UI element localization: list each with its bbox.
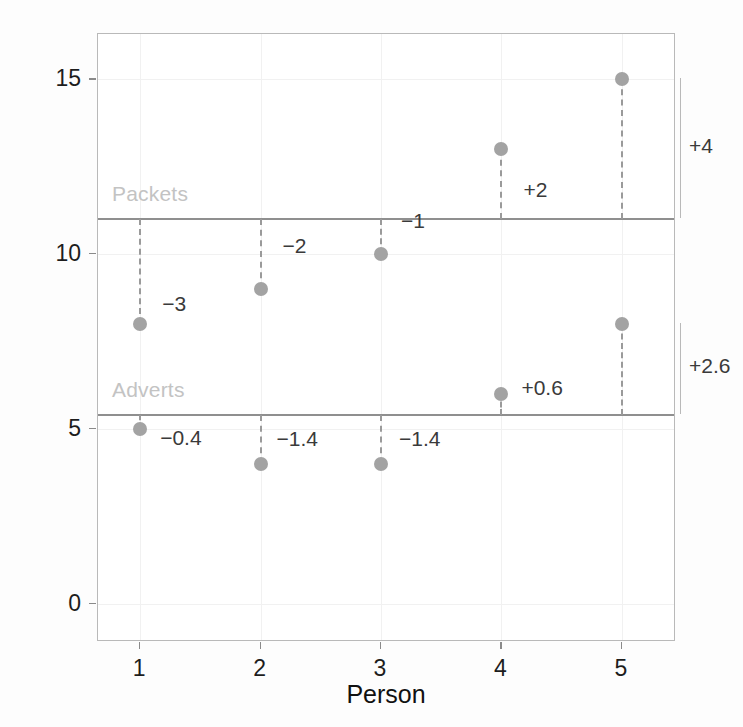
gridline-horizontal [98,79,674,80]
gridline-vertical [140,34,141,640]
bracket-packets [680,78,681,218]
mean-line-adverts [98,414,674,416]
data-point-packets-3[interactable] [374,247,388,261]
bracket-adverts [680,323,681,414]
mean-line-packets [98,218,674,220]
y-tick [89,603,96,604]
x-tick-label-2: 2 [253,655,266,682]
data-point-adverts-1[interactable] [133,422,147,436]
data-point-adverts-3[interactable] [374,457,388,471]
y-tick-label-0: 0 [7,589,81,616]
y-tick [89,428,96,429]
plot-area: PacketsAdverts −3−2−1+2−0.4−1.4−1.4+0.6 [97,33,675,641]
data-point-packets-1[interactable] [133,317,147,331]
y-tick [89,78,96,79]
data-point-packets-5[interactable] [615,72,629,86]
deviation-label-adverts-1: −0.4 [160,426,201,450]
x-axis-title: Person [97,680,675,709]
deviation-label-packets-4: +2 [523,178,547,202]
deviation-label-adverts-3: −1.4 [399,427,440,451]
deviation-label-packets-1: −3 [162,292,186,316]
data-point-packets-4[interactable] [494,142,508,156]
x-tick-label-3: 3 [374,655,387,682]
chart-canvas: Number of Adverts/Packets 051015 Packets… [0,0,743,727]
gridline-vertical [501,34,502,640]
y-tick-label-15: 15 [7,65,81,92]
deviation-label-packets-2: −2 [283,234,307,258]
x-tick-label-5: 5 [614,655,627,682]
deviation-line-adverts-5 [621,324,623,415]
data-point-packets-2[interactable] [254,282,268,296]
y-tick [89,253,96,254]
x-tick [139,642,140,649]
y-tick-label-5: 5 [7,414,81,441]
x-tick [260,642,261,649]
x-tick [380,642,381,649]
deviation-label-packets-3: −1 [401,209,425,233]
deviation-label-adverts-2: −1.4 [277,427,318,451]
x-tick [500,642,501,649]
gridline-vertical [261,34,262,640]
deviation-line-packets-1 [139,219,141,324]
deviation-line-packets-2 [260,219,262,289]
gridline-horizontal [98,604,674,605]
deviation-line-packets-5 [621,79,623,219]
x-tick [621,642,622,649]
mean-label-packets: Packets [112,182,188,206]
x-tick-label-4: 4 [494,655,507,682]
data-point-adverts-4[interactable] [494,387,508,401]
data-point-adverts-5[interactable] [615,317,629,331]
deviation-label-adverts-4: +0.6 [521,376,562,400]
x-tick-label-1: 1 [133,655,146,682]
y-tick-label-10: 10 [7,240,81,267]
deviation-line-packets-4 [500,149,502,219]
deviation-label-adverts-5: +2.6 [689,354,730,378]
mean-label-adverts: Adverts [112,378,185,402]
deviation-label-packets-5: +4 [689,134,713,158]
gridline-vertical [381,34,382,640]
data-point-adverts-2[interactable] [254,457,268,471]
